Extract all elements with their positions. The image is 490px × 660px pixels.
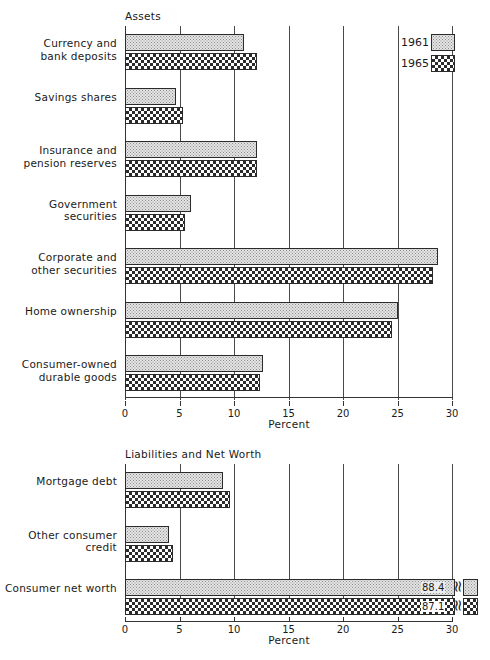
axis-tick xyxy=(343,617,344,622)
legend-label: 1965 xyxy=(401,57,429,70)
liabilities-chart: Liabilities and Net Worth Mortgage debtO… xyxy=(0,440,490,660)
assets-panel-title: Assets xyxy=(125,10,161,22)
category-label: Consumer-owned durable goods xyxy=(0,358,117,383)
axis-tick xyxy=(289,401,290,406)
axis-tick-label: 20 xyxy=(328,408,358,419)
axis-tick xyxy=(343,401,344,406)
bar-1961-broken-tail xyxy=(463,579,478,596)
bar-1961-broken-main xyxy=(125,579,455,596)
bar-1961 xyxy=(125,526,169,543)
bar-1965-broken-main xyxy=(125,598,455,615)
axis-tick xyxy=(234,617,235,622)
category-label: Mortgage debt xyxy=(0,475,117,488)
bar-1965 xyxy=(125,491,230,508)
bar-1965-broken-tail xyxy=(463,598,478,615)
assets-axis-title: Percent xyxy=(249,418,329,430)
bar-value-label: 87.1 xyxy=(421,601,445,612)
legend-label: 1961 xyxy=(401,36,429,49)
axis-tick-label: 10 xyxy=(219,624,249,635)
gridline xyxy=(452,26,453,400)
gridline xyxy=(398,26,399,400)
axis-tick xyxy=(125,617,126,622)
bar-1961 xyxy=(125,88,176,105)
category-label: Savings shares xyxy=(0,91,117,104)
axis-tick xyxy=(452,617,453,622)
category-label: Home ownership xyxy=(0,305,117,318)
axis-tick xyxy=(452,401,453,406)
bar-1965 xyxy=(125,107,183,124)
bar-1965 xyxy=(125,545,173,562)
assets-chart: Assets Currency and bank depositsSavings… xyxy=(0,0,490,440)
liabilities-panel-title: Liabilities and Net Worth xyxy=(125,448,262,460)
bar-1965 xyxy=(125,214,185,231)
bar-1965 xyxy=(125,160,257,177)
axis-tick xyxy=(125,401,126,406)
legend-item-1961: 1961 xyxy=(330,34,455,52)
axis-tick xyxy=(398,401,399,406)
category-label: Other consumer credit xyxy=(0,529,117,554)
axis-tick-label: 30 xyxy=(437,408,467,419)
axis-tick-label: 30 xyxy=(437,624,467,635)
category-label: Insurance and pension reserves xyxy=(0,144,117,169)
bar-1961 xyxy=(125,34,244,51)
legend: 19611965 xyxy=(330,34,455,76)
axis-tick-label: 10 xyxy=(219,408,249,419)
gridline xyxy=(234,26,235,400)
axis-tick xyxy=(234,401,235,406)
axis-tick xyxy=(289,617,290,622)
bar-1965 xyxy=(125,53,257,70)
axis-tick xyxy=(398,617,399,622)
axis-tick-label: 20 xyxy=(328,624,358,635)
axis-tick xyxy=(180,617,181,622)
axis-tick-label: 25 xyxy=(383,408,413,419)
axis-tick-label: 5 xyxy=(165,408,195,419)
legend-item-1965: 1965 xyxy=(330,55,455,73)
bar-1961 xyxy=(125,355,263,372)
legend-swatch-stipple xyxy=(431,34,455,51)
bar-value-label: 88.4 xyxy=(421,582,445,593)
bar-1965 xyxy=(125,374,260,391)
axis-baseline xyxy=(125,397,453,398)
bar-1965 xyxy=(125,267,433,284)
axis-tick-label: 5 xyxy=(165,624,195,635)
gridline xyxy=(343,26,344,400)
legend-swatch-crosshatch xyxy=(431,55,455,72)
bar-1961 xyxy=(125,302,398,319)
category-label: Currency and bank deposits xyxy=(0,37,117,62)
axis-tick xyxy=(180,401,181,406)
axis-tick-label: 0 xyxy=(110,624,140,635)
liabilities-axis-title: Percent xyxy=(249,634,329,646)
bar-1961 xyxy=(125,248,438,265)
category-label: Corporate and other securities xyxy=(0,251,117,276)
bar-1961 xyxy=(125,141,257,158)
axis-tick-label: 0 xyxy=(110,408,140,419)
bar-1961 xyxy=(125,195,191,212)
axis-tick-label: 25 xyxy=(383,624,413,635)
bar-1965 xyxy=(125,321,392,338)
category-label: Government securities xyxy=(0,198,117,223)
gridline xyxy=(289,26,290,400)
bar-1961 xyxy=(125,472,223,489)
category-label: Consumer net worth xyxy=(0,582,117,595)
